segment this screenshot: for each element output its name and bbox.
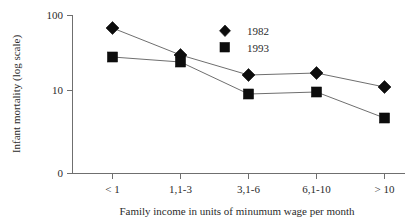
x-axis-title: Family income in units of minumum wage p… [119, 205, 355, 217]
data-point-1993-4 [380, 113, 390, 123]
data-point-1993-0 [108, 52, 118, 62]
y-tick-labels: 100 10 0 [47, 9, 64, 179]
y-tick-label-100: 100 [47, 9, 64, 21]
diamond-marker-icon [220, 25, 231, 37]
data-point-1982-0 [106, 22, 119, 35]
data-point-1993-2 [244, 89, 254, 99]
data-point-1982-2 [242, 69, 255, 82]
x-tick-labels: < 1 1,1-3 3,1-6 6,1-10 > 10 [105, 183, 395, 195]
legend-label-1982: 1982 [247, 25, 269, 37]
series-1993-line [113, 57, 385, 118]
legend-entry-1993: 1993 [220, 42, 270, 54]
square-marker-icon [220, 43, 230, 53]
infant-mortality-line-chart: 100 10 0 < 1 1,1-3 3,1-6 6,1-10 > 10 Fam… [0, 0, 417, 224]
x-tick-label-gt10: > 10 [375, 183, 395, 195]
data-point-1993-1 [176, 57, 186, 67]
x-tick-label-6-1-10: 6,1-10 [302, 183, 331, 195]
y-tick-label-10: 10 [52, 84, 64, 96]
series-1993 [108, 52, 390, 123]
data-point-1982-3 [310, 67, 323, 80]
x-tick-label-1-1-3: 1,1-3 [169, 183, 192, 195]
chart-canvas: 100 10 0 < 1 1,1-3 3,1-6 6,1-10 > 10 Fam… [0, 0, 417, 224]
chart-legend: 1982 1993 [220, 25, 270, 54]
y-tick-label-0: 0 [58, 167, 64, 179]
data-point-1982-4 [378, 81, 391, 94]
axis-group [67, 15, 405, 179]
y-axis-title: Infant mortality (log scale) [10, 35, 23, 154]
data-point-1993-3 [312, 87, 322, 97]
x-tick-label-3-1-6: 3,1-6 [237, 183, 260, 195]
legend-label-1993: 1993 [247, 42, 270, 54]
x-tick-label-lt1: < 1 [105, 183, 119, 195]
legend-entry-1982: 1982 [220, 25, 270, 37]
